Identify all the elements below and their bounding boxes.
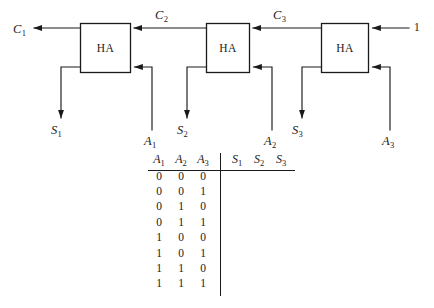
header-s1-sub: 1 xyxy=(238,158,242,168)
header-s1-base: S xyxy=(232,152,238,166)
truth-table-output-cell xyxy=(226,276,248,291)
truth-table-output-cell xyxy=(248,214,270,229)
truth-table-output-cell xyxy=(248,199,270,214)
truth-table-output-cell xyxy=(270,214,292,229)
truth-table-output-cell xyxy=(248,230,270,245)
truth-table-input-cell: 1 xyxy=(192,276,214,291)
truth-table-input-cell: 0 xyxy=(148,183,170,198)
sum-label-s1-sub: 1 xyxy=(58,129,62,139)
truth-table-input-cell: 1 xyxy=(148,230,170,245)
ha-block-2-label: HA xyxy=(206,43,250,55)
truth-table-input-cell: 1 xyxy=(192,214,214,229)
truth-table-input-cell: 0 xyxy=(192,230,214,245)
header-a2-base: A xyxy=(175,152,182,166)
truth-table-input-cell: 1 xyxy=(170,214,192,229)
header-a3-base: A xyxy=(197,152,204,166)
input-label-a1-base: A xyxy=(144,134,152,148)
carry-label-c3-base: C xyxy=(273,8,281,22)
sum-label-s3-base: S xyxy=(292,123,298,137)
input-label-a2-base: A xyxy=(264,134,272,148)
input-label-a2-sub: 2 xyxy=(272,140,276,150)
carry-label-c2-sub: 2 xyxy=(164,14,168,24)
truth-table-header-s1: S1 xyxy=(226,152,248,168)
header-s2-base: S xyxy=(254,152,260,166)
header-s3-base: S xyxy=(276,152,282,166)
sum-label-s1: S1 xyxy=(51,124,62,137)
carry-label-c3-sub: 3 xyxy=(282,14,286,24)
truth-table-input-cell: 0 xyxy=(192,260,214,275)
truth-table-output-cell xyxy=(226,214,248,229)
header-a1-sub: 1 xyxy=(161,158,165,168)
truth-table-header-s3: S3 xyxy=(270,152,292,168)
sum-wire-s2 xyxy=(187,67,207,118)
sum-label-s2: S2 xyxy=(177,124,188,137)
truth-table-input-cell: 0 xyxy=(148,214,170,229)
sum-wire-s3 xyxy=(302,67,322,118)
truth-table-vertical-divider xyxy=(220,153,221,296)
truth-table-input-cell: 1 xyxy=(192,245,214,260)
input-wire-a1 xyxy=(135,67,153,130)
truth-table-header-rule xyxy=(148,170,295,171)
header-s3-sub: 3 xyxy=(282,158,286,168)
truth-table-input-cell: 0 xyxy=(170,245,192,260)
truth-table-header-s2: S2 xyxy=(248,152,270,168)
truth-table-output-cell xyxy=(226,183,248,198)
header-a1-base: A xyxy=(153,152,160,166)
truth-table-output-cell xyxy=(270,260,292,275)
header-s2-sub: 2 xyxy=(260,158,264,168)
truth-table-input-cell: 0 xyxy=(192,199,214,214)
truth-table-output-cell xyxy=(270,230,292,245)
header-a2-sub: 2 xyxy=(183,158,187,168)
sum-label-s3-sub: 3 xyxy=(299,129,303,139)
truth-table-input-cell: 1 xyxy=(170,260,192,275)
truth-table-output-cell xyxy=(248,260,270,275)
sum-label-s3: S3 xyxy=(292,124,303,137)
truth-table-input-cell: 0 xyxy=(148,199,170,214)
input-label-a3: A3 xyxy=(382,135,394,148)
truth-table-input-cell: 1 xyxy=(148,260,170,275)
truth-table-input-cell: 1 xyxy=(170,199,192,214)
carry-label-c2: C2 xyxy=(155,9,168,22)
truth-table-output-cell xyxy=(270,183,292,198)
carry-label-c3: C3 xyxy=(273,9,286,22)
truth-table-output-cell xyxy=(270,245,292,260)
carry-label-c1-base: C xyxy=(13,22,21,36)
input-label-a1-sub: 1 xyxy=(152,140,156,150)
ha-block-1-label: HA xyxy=(80,43,131,55)
truth-table-output-cell xyxy=(248,245,270,260)
carry-label-c1: C1 xyxy=(13,23,26,36)
truth-table-input-cell: 1 xyxy=(148,245,170,260)
truth-table-output-cell xyxy=(248,183,270,198)
truth-table-header-a1: A1 xyxy=(148,152,170,168)
input-label-a3-sub: 3 xyxy=(390,140,394,150)
header-a3-sub: 3 xyxy=(205,158,209,168)
truth-table-output-cell xyxy=(270,199,292,214)
sum-label-s1-base: S xyxy=(51,123,57,137)
sum-wire-s1 xyxy=(61,67,81,118)
truth-table-output-cell xyxy=(248,276,270,291)
truth-table-input-cell: 1 xyxy=(170,276,192,291)
truth-table-output-cell xyxy=(226,245,248,260)
truth-table-output-cell xyxy=(226,230,248,245)
input-wire-a2 xyxy=(254,67,273,130)
truth-table-output-cell xyxy=(226,199,248,214)
truth-table-header-a2: A2 xyxy=(170,152,192,168)
input-label-a2: A2 xyxy=(264,135,276,148)
ha-block-3-label: HA xyxy=(321,43,369,55)
input-wire-a3 xyxy=(373,67,391,130)
sum-label-s2-sub: 2 xyxy=(184,129,188,139)
figure-canvas: HA HA HA C1 C2 C3 1 S1 S2 S3 A1 A2 A3 A1 xyxy=(0,0,434,308)
truth-table: A1 A2 A3 S1 S2 S3 0000010100111001011101… xyxy=(148,152,298,302)
carry-label-c2-base: C xyxy=(155,8,163,22)
truth-table-input-cell: 0 xyxy=(170,230,192,245)
truth-table-input-cell: 1 xyxy=(192,183,214,198)
truth-table-header-a3: A3 xyxy=(192,152,214,168)
constant-one-label: 1 xyxy=(414,22,420,34)
truth-table-input-cell: 1 xyxy=(148,276,170,291)
input-label-a1: A1 xyxy=(144,135,156,148)
truth-table-input-cell: 0 xyxy=(170,183,192,198)
truth-table-output-cell xyxy=(226,260,248,275)
input-label-a3-base: A xyxy=(382,134,390,148)
carry-label-c1-sub: 1 xyxy=(22,28,26,38)
sum-label-s2-base: S xyxy=(177,123,183,137)
